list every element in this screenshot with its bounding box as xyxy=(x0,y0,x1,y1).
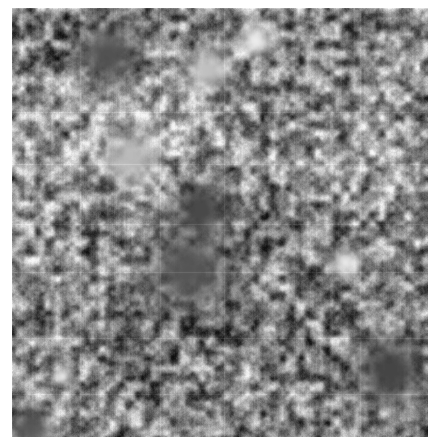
page-root xyxy=(0,0,437,447)
speckle-image-panel xyxy=(12,8,428,437)
speckle-texture-canvas xyxy=(12,8,428,437)
